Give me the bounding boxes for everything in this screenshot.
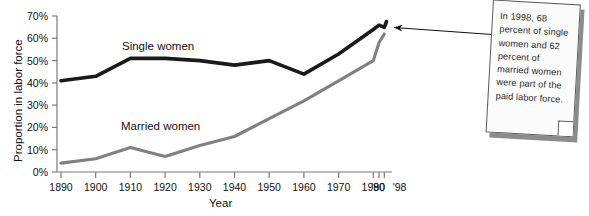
callout-paper: In 1998, 68 percent of single women and …	[486, 0, 581, 137]
series-label-married-women: Married women	[121, 121, 200, 133]
x-tick-marks	[61, 172, 384, 178]
x-tick-label-1998: '98	[384, 182, 416, 193]
callout-note-text: In 1998, 68 percent of single women and …	[495, 10, 576, 107]
y-tick-label-0: 0%	[14, 167, 48, 178]
y-tick-marks	[52, 16, 57, 172]
series-line-married-women	[61, 34, 384, 163]
y-axis-title: Proportion in labor force	[13, 39, 25, 162]
series-line-single-women	[61, 22, 387, 81]
callout-folded-corner	[557, 120, 573, 136]
y-tick-label-70: 70%	[14, 11, 48, 22]
x-axis-title: Year	[209, 198, 232, 210]
figure-labor-force-chart: 70% 60% 50% 40% 30% 20% 10% 0% Proportio…	[0, 0, 589, 216]
series-label-single-women: Single women	[122, 41, 194, 53]
callout-note: In 1998, 68 percent of single women and …	[485, 0, 585, 144]
callout-leader-line	[394, 28, 492, 35]
